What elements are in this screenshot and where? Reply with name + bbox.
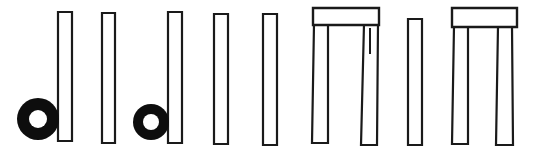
standing-stone-1 <box>58 12 72 141</box>
trilithon-1-inner-mark <box>369 28 371 54</box>
ring-1 <box>17 98 59 140</box>
ring-2-hole <box>143 114 159 130</box>
megalith-drawing-canvas <box>0 0 536 155</box>
trilithon-1-lintel <box>313 8 379 25</box>
ring-1-hole <box>29 110 47 128</box>
megalith-figure <box>0 0 536 155</box>
ring-2 <box>133 104 169 140</box>
standing-stone-4 <box>214 14 228 144</box>
trilithon-1-left-upright <box>312 24 328 143</box>
trilithon-2-left-upright <box>452 26 468 144</box>
standing-stone-2 <box>102 13 115 143</box>
trilithon-2-lintel <box>452 8 517 27</box>
trilithon-2-right-upright <box>496 26 513 145</box>
standing-stone-5 <box>263 14 277 145</box>
standing-stone-6 <box>408 19 422 145</box>
standing-stone-3 <box>168 12 182 143</box>
